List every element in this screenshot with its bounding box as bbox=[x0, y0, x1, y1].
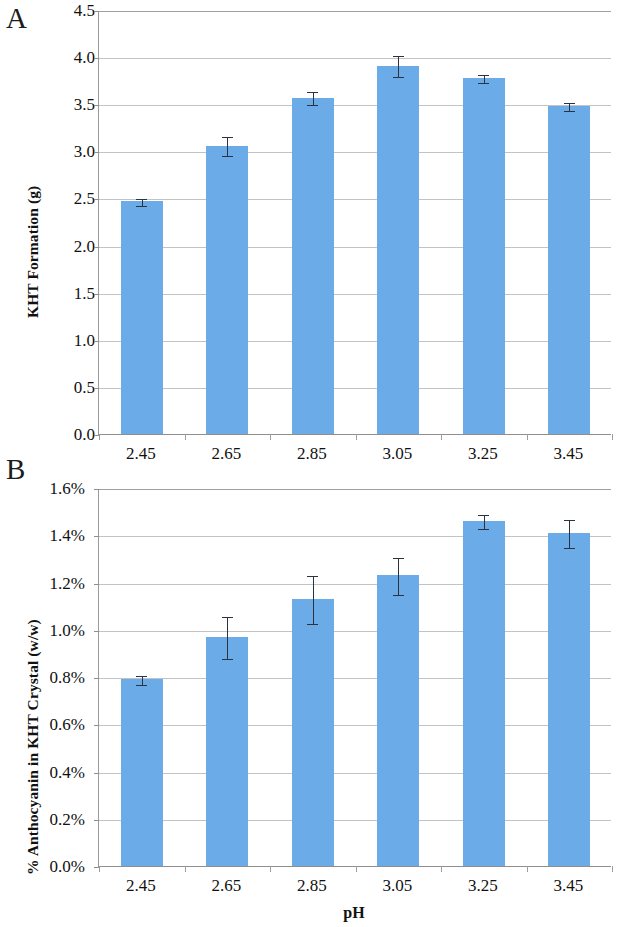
y-tick-mark bbox=[94, 11, 99, 12]
error-bar-cap-lower bbox=[564, 111, 575, 112]
gridline bbox=[99, 489, 611, 490]
gridline bbox=[99, 199, 611, 200]
y-tick-label: 0.6% bbox=[23, 715, 85, 735]
bar bbox=[548, 533, 590, 866]
panel-b-plot-area bbox=[98, 489, 611, 867]
error-bar-cap-upper bbox=[307, 576, 318, 577]
x-tick-mark bbox=[99, 434, 100, 440]
y-tick-label: 2.0 bbox=[33, 237, 95, 257]
y-tick-mark bbox=[94, 388, 99, 389]
panel-b-y-tick-labels: 0.0%0.2%0.4%0.6%0.8%1.0%1.2%1.4%1.6% bbox=[23, 455, 85, 927]
y-tick-mark bbox=[94, 584, 99, 585]
bar bbox=[292, 599, 334, 866]
y-tick-label: 0.0% bbox=[23, 857, 85, 877]
bar bbox=[377, 575, 419, 866]
error-bar bbox=[142, 199, 143, 207]
panel-a: A KHT Formation (g) 0.00.51.01.52.02.53.… bbox=[0, 0, 623, 470]
x-tick-mark bbox=[99, 866, 100, 872]
error-bar-cap-lower bbox=[136, 685, 147, 686]
y-tick-mark bbox=[94, 105, 99, 106]
y-tick-label: 1.6% bbox=[23, 479, 85, 499]
gridline bbox=[99, 294, 611, 295]
x-tick-mark bbox=[612, 434, 613, 440]
bar bbox=[292, 98, 334, 434]
y-tick-mark bbox=[94, 820, 99, 821]
figure-container: A KHT Formation (g) 0.00.51.01.52.02.53.… bbox=[0, 0, 623, 927]
bar bbox=[121, 201, 163, 434]
x-tick-mark bbox=[185, 866, 186, 872]
gridline bbox=[99, 631, 611, 632]
error-bar-cap-upper bbox=[307, 92, 318, 93]
y-tick-mark bbox=[94, 725, 99, 726]
error-bar-cap-upper bbox=[478, 75, 489, 76]
error-bar-cap-upper bbox=[222, 137, 233, 138]
error-bar bbox=[398, 558, 399, 596]
panel-b-x-axis-title: pH bbox=[98, 904, 610, 922]
y-tick-mark bbox=[94, 341, 99, 342]
x-tick-label: 3.05 bbox=[382, 876, 412, 896]
error-bar bbox=[484, 515, 485, 529]
y-tick-label: 0.8% bbox=[23, 668, 85, 688]
y-tick-mark bbox=[94, 631, 99, 632]
error-bar-cap-lower bbox=[393, 77, 404, 78]
panel-a-y-tick-labels: 0.00.51.01.52.02.53.03.54.04.5 bbox=[33, 0, 95, 470]
y-tick-mark bbox=[94, 536, 99, 537]
panel-b-x-tick-labels: 2.452.652.853.053.253.45 bbox=[98, 876, 610, 900]
y-tick-mark bbox=[94, 199, 99, 200]
gridline bbox=[99, 773, 611, 774]
panel-b: B % Anthocyanin in KHT Crystal (w/w) 0.0… bbox=[0, 455, 623, 927]
y-tick-label: 0.2% bbox=[23, 810, 85, 830]
y-tick-mark bbox=[94, 247, 99, 248]
panel-a-plot-area bbox=[98, 11, 611, 435]
x-tick-label: 3.25 bbox=[468, 876, 498, 896]
x-tick-label: 3.45 bbox=[553, 876, 583, 896]
error-bar bbox=[484, 75, 485, 83]
y-tick-mark bbox=[94, 152, 99, 153]
y-tick-label: 3.0 bbox=[33, 142, 95, 162]
y-tick-mark bbox=[94, 489, 99, 490]
error-bar bbox=[569, 103, 570, 111]
gridline bbox=[99, 536, 611, 537]
gridline bbox=[99, 725, 611, 726]
error-bar-cap-lower bbox=[478, 83, 489, 84]
x-tick-mark bbox=[441, 866, 442, 872]
x-tick-label: 2.65 bbox=[211, 876, 241, 896]
y-tick-label: 1.0 bbox=[33, 331, 95, 351]
y-tick-label: 4.5 bbox=[33, 1, 95, 21]
x-tick-mark bbox=[527, 434, 528, 440]
gridline bbox=[99, 388, 611, 389]
error-bar-cap-upper bbox=[393, 558, 404, 559]
error-bar-cap-lower bbox=[307, 105, 318, 106]
error-bar-cap-upper bbox=[393, 56, 404, 57]
y-tick-mark bbox=[94, 678, 99, 679]
gridline bbox=[99, 584, 611, 585]
bar bbox=[206, 146, 248, 434]
y-tick-mark bbox=[94, 773, 99, 774]
y-tick-label: 0.4% bbox=[23, 763, 85, 783]
error-bar-cap-lower bbox=[222, 156, 233, 157]
panel-a-letter: A bbox=[6, 4, 27, 33]
gridline bbox=[99, 341, 611, 342]
error-bar-cap-upper bbox=[136, 676, 147, 677]
y-tick-label: 0.5 bbox=[33, 378, 95, 398]
error-bar-cap-upper bbox=[478, 515, 489, 516]
bar bbox=[548, 106, 590, 434]
x-tick-label: 2.45 bbox=[126, 876, 156, 896]
gridline bbox=[99, 152, 611, 153]
error-bar bbox=[227, 617, 228, 660]
error-bar bbox=[569, 520, 570, 548]
y-tick-label: 2.5 bbox=[33, 189, 95, 209]
x-tick-mark bbox=[612, 866, 613, 872]
gridline bbox=[99, 820, 611, 821]
bar bbox=[463, 521, 505, 866]
error-bar-cap-upper bbox=[564, 520, 575, 521]
y-tick-label: 1.2% bbox=[23, 574, 85, 594]
bar bbox=[377, 66, 419, 434]
error-bar-cap-upper bbox=[222, 617, 233, 618]
error-bar bbox=[313, 92, 314, 105]
x-tick-mark bbox=[356, 866, 357, 872]
y-tick-label: 1.0% bbox=[23, 621, 85, 641]
error-bar-cap-lower bbox=[136, 206, 147, 207]
gridline bbox=[99, 247, 611, 248]
gridline bbox=[99, 58, 611, 59]
